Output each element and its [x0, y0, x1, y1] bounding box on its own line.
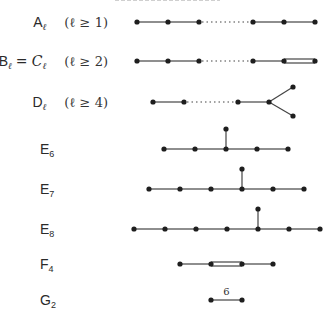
node: [270, 261, 275, 266]
node: [250, 19, 255, 24]
node: [208, 297, 213, 302]
node: [255, 226, 260, 231]
node: [223, 126, 228, 131]
diagram-bc: [134, 58, 317, 63]
node: [312, 19, 317, 24]
node: [235, 99, 240, 104]
node: [131, 226, 136, 231]
node: [162, 226, 167, 231]
node: [146, 186, 151, 191]
node: [290, 84, 295, 89]
node: [196, 19, 201, 24]
node: [250, 58, 255, 63]
node: [281, 19, 286, 24]
diagram-d: [150, 84, 295, 118]
node: [266, 99, 271, 104]
node: [208, 186, 213, 191]
node: [193, 226, 198, 231]
node: [286, 226, 291, 231]
edge-label: 6: [223, 286, 229, 297]
node: [281, 58, 286, 63]
node: [181, 99, 186, 104]
node: [196, 58, 201, 63]
node: [312, 58, 317, 63]
diagram-f4: [177, 261, 275, 266]
node: [134, 19, 139, 24]
node: [239, 261, 244, 266]
node: [177, 186, 182, 191]
diagram-a: [134, 19, 317, 24]
node: [239, 186, 244, 191]
node: [165, 58, 170, 63]
dynkin-diagrams: 6: [0, 0, 332, 319]
diagram-e7: [146, 166, 306, 191]
node: [223, 146, 228, 151]
node: [192, 146, 197, 151]
node: [177, 261, 182, 266]
node: [208, 261, 213, 266]
node: [224, 226, 229, 231]
node: [255, 206, 260, 211]
node: [270, 186, 275, 191]
node: [150, 99, 155, 104]
diagram-e6: [161, 126, 290, 151]
node: [317, 226, 322, 231]
node: [165, 19, 170, 24]
node: [239, 166, 244, 171]
edge: [269, 102, 293, 116]
node: [239, 297, 244, 302]
node: [290, 113, 295, 118]
node: [301, 186, 306, 191]
node: [285, 146, 290, 151]
node: [161, 146, 166, 151]
node: [254, 146, 259, 151]
diagram-g2: 6: [208, 286, 244, 303]
diagram-e8: [131, 206, 322, 231]
edge: [269, 87, 293, 102]
node: [134, 58, 139, 63]
